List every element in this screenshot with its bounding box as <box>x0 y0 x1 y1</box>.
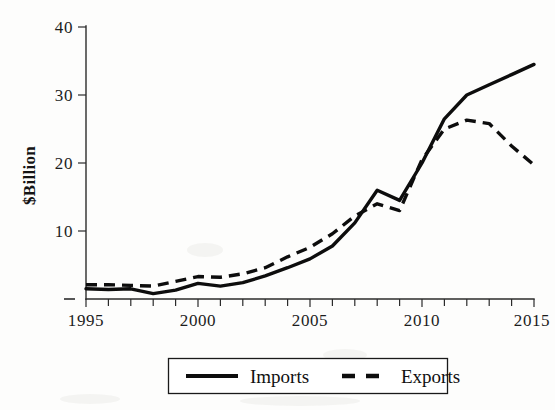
x-tick-label-2005: 2005 <box>292 311 328 330</box>
y-tick-label-10: 10 <box>55 222 73 241</box>
x-tick-label-1995: 1995 <box>68 311 104 330</box>
scan-smudge <box>60 394 120 404</box>
x-axis: 1995 2000 2005 2010 2015 <box>68 299 550 330</box>
y-axis: 40 30 20 10 $Billion <box>20 18 86 299</box>
x-tick-label-2015: 2015 <box>514 311 550 330</box>
x-tick-label-2000: 2000 <box>180 311 216 330</box>
x-tick-label-2010: 2010 <box>404 311 440 330</box>
chart-legend: Imports Exports <box>169 359 461 394</box>
y-axis-title: $Billion <box>20 146 39 205</box>
series-line-imports <box>86 64 534 293</box>
scan-smudge <box>187 243 223 257</box>
x-tick-marks <box>86 299 534 307</box>
plot-area <box>86 64 534 293</box>
chart-figure: 40 30 20 10 $Billion <box>0 0 555 410</box>
line-chart-canvas: 40 30 20 10 $Billion <box>0 0 555 410</box>
legend-label-exports: Exports <box>401 366 460 387</box>
legend-label-imports: Imports <box>250 366 309 387</box>
y-tick-label-30: 30 <box>55 86 73 105</box>
y-tick-label-40: 40 <box>55 18 73 37</box>
scan-smudge <box>240 396 360 406</box>
y-tick-label-20: 20 <box>55 154 73 173</box>
series-line-exports <box>86 120 534 286</box>
